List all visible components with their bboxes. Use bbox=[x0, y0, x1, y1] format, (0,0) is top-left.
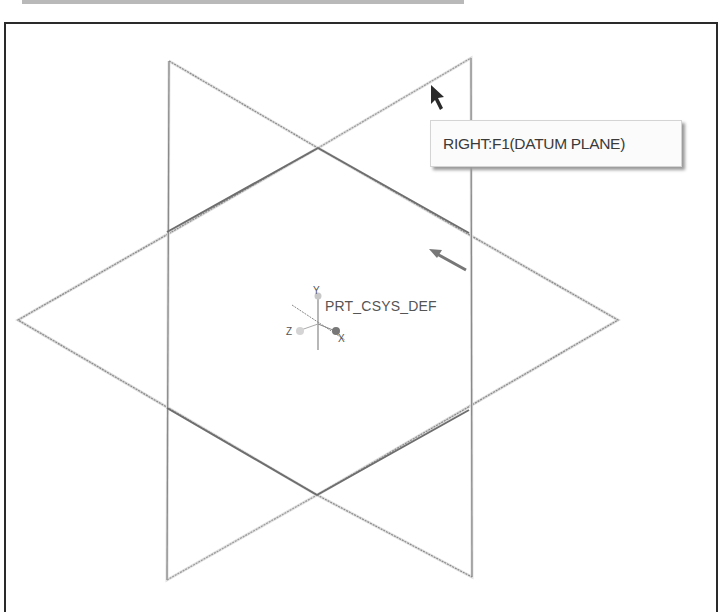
csys-axis-z-label: Z bbox=[286, 326, 292, 337]
mouse-cursor-icon bbox=[431, 85, 444, 110]
csys-axis-y-label: Y bbox=[313, 285, 320, 296]
datum-plane-right[interactable] bbox=[167, 58, 472, 580]
csys-axis-x-label: X bbox=[338, 333, 345, 344]
direction-arrow-icon[interactable] bbox=[429, 249, 466, 270]
datum-plane-tooltip: RIGHT:F1(DATUM PLANE) bbox=[430, 120, 682, 167]
tooltip-text: RIGHT:F1(DATUM PLANE) bbox=[443, 135, 625, 153]
csys-label: PRT_CSYS_DEF bbox=[325, 298, 437, 314]
